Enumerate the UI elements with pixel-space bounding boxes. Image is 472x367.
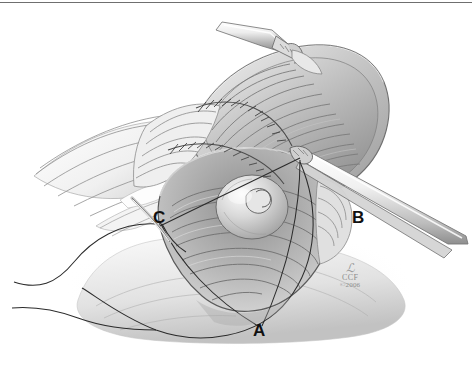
annotation-label-b: B: [352, 209, 364, 226]
annotation-label-c: C: [153, 209, 165, 226]
central-nipple-valve: [216, 175, 288, 239]
annotation-label-a: A: [253, 322, 265, 339]
credit-copyright-year: ©2006: [340, 282, 360, 289]
surgical-illustration-figure: C B A ℒ CCF ©2006: [0, 0, 472, 367]
surgical-forceps-upper-left: [216, 22, 303, 63]
illustration-canvas: [0, 0, 472, 367]
copyright-credit: ℒ CCF ©2006: [340, 262, 360, 289]
